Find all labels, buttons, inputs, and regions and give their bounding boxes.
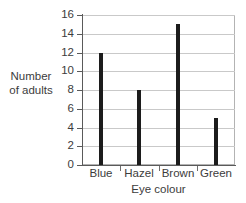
bar bbox=[137, 90, 141, 165]
gridline bbox=[83, 128, 235, 129]
gridline bbox=[83, 71, 235, 72]
gridline bbox=[83, 34, 235, 35]
y-axis-tick-label: 10 bbox=[52, 65, 74, 77]
gridline bbox=[83, 146, 235, 147]
x-axis-category-label: Blue bbox=[82, 167, 120, 180]
y-axis-spine bbox=[82, 14, 83, 166]
bar bbox=[176, 24, 180, 165]
x-axis-category-label: Brown bbox=[159, 167, 197, 180]
y-axis-tick-label: 8 bbox=[52, 84, 74, 96]
x-axis-category-label: Hazel bbox=[120, 167, 158, 180]
gridline bbox=[83, 109, 235, 110]
bar bbox=[99, 53, 103, 165]
y-axis-tick-label: 6 bbox=[52, 103, 74, 115]
y-axis-tick-label: 0 bbox=[52, 159, 74, 171]
y-axis-tick-label: 12 bbox=[52, 47, 74, 59]
y-axis-tick-label: 14 bbox=[52, 28, 74, 40]
y-axis-tick-label: 2 bbox=[52, 140, 74, 152]
y-axis-tick-label: 4 bbox=[52, 122, 74, 134]
y-axis-tick-label: 16 bbox=[52, 9, 74, 21]
x-axis-category-label: Green bbox=[197, 167, 235, 180]
bar bbox=[214, 118, 218, 165]
bar-chart: Number of adults 0246810121416 BlueHazel… bbox=[0, 0, 246, 203]
gridline bbox=[83, 53, 235, 54]
gridline bbox=[83, 15, 235, 16]
gridline bbox=[83, 90, 235, 91]
x-axis-title: Eye colour bbox=[82, 183, 235, 196]
